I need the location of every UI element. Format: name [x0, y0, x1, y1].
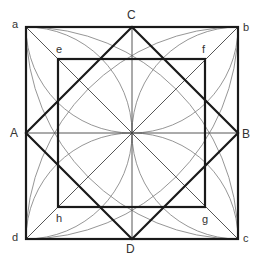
label-D: D: [126, 242, 135, 256]
label-b: b: [243, 21, 249, 33]
label-d: d: [12, 231, 18, 243]
label-A: A: [10, 126, 18, 140]
geometric-diagram: a b c d C D A B e f g h: [0, 0, 261, 265]
label-e: e: [56, 43, 62, 55]
label-B: B: [242, 127, 250, 141]
label-f: f: [202, 43, 206, 55]
label-h: h: [56, 212, 62, 224]
label-a: a: [12, 18, 19, 30]
label-g: g: [202, 213, 208, 225]
label-c: c: [243, 232, 249, 244]
label-C: C: [127, 8, 136, 22]
